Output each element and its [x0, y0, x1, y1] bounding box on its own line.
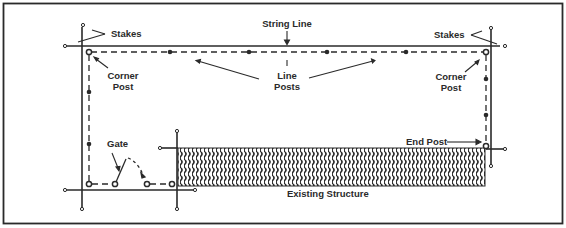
gate-leaf — [116, 159, 126, 182]
label-stakes-right: Stakes — [434, 29, 465, 40]
label-string-line: String Line — [262, 18, 312, 29]
label-corner-post-left-2: Post — [113, 81, 134, 92]
gate-arrowhead — [141, 173, 145, 178]
label-existing-structure: Existing Structure — [287, 188, 369, 199]
gate-post — [144, 181, 149, 186]
stake — [175, 129, 178, 132]
line-post — [484, 77, 489, 82]
corner-post-top-right — [483, 49, 488, 54]
stake — [81, 23, 84, 26]
label-stakes-left: Stakes — [111, 28, 142, 39]
line-post — [484, 113, 489, 118]
line-post — [87, 90, 92, 95]
label-gate: Gate — [107, 138, 128, 149]
stake — [193, 188, 196, 191]
label-corner-post-left-1: Corner — [107, 70, 138, 81]
stake — [80, 207, 83, 210]
line-post — [168, 50, 173, 55]
stake — [489, 164, 492, 167]
label-end-post: End Post — [406, 136, 448, 147]
stake — [489, 26, 492, 29]
label-corner-post-right-2: Post — [441, 82, 462, 93]
line-post — [87, 142, 92, 147]
corner-post-bottom-left — [86, 181, 91, 186]
gate-post — [112, 181, 117, 186]
stake — [503, 44, 506, 47]
end-post — [483, 143, 488, 148]
line-post — [325, 50, 330, 55]
stake — [503, 147, 506, 150]
corner-post-top-left — [86, 49, 91, 54]
label-corner-post-right-1: Corner — [435, 71, 466, 82]
stake — [175, 207, 178, 210]
fence-layout-diagram: Stakes Stakes String Line Corner Post Co… — [0, 0, 566, 228]
stake — [63, 44, 66, 47]
stake — [158, 146, 161, 149]
line-post — [247, 50, 252, 55]
label-line-posts-1: Line — [277, 70, 297, 81]
stake — [63, 188, 66, 191]
line-post — [404, 50, 409, 55]
end-post-structure — [169, 181, 174, 186]
existing-structure — [178, 148, 485, 186]
label-line-posts-2: Posts — [274, 81, 300, 92]
gate — [116, 158, 145, 182]
